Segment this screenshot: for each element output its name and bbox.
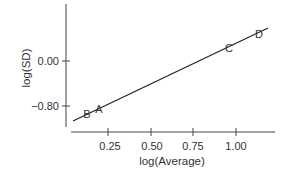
x-tick-label: 0.25 <box>99 140 120 152</box>
y-tick-label: 0.00 <box>38 55 59 67</box>
point-label-c: C <box>225 42 233 54</box>
y-axis-title: log(SD) <box>20 48 32 87</box>
x-axis-title: log(Average) <box>139 155 205 167</box>
chart: 0.00 −0.80 0.25 0.50 0.75 1.00 log(Avera… <box>0 0 289 176</box>
x-tick-label: 0.75 <box>182 140 203 152</box>
y-tick-label: −0.80 <box>31 100 59 112</box>
y-ticks: 0.00 −0.80 <box>31 55 70 112</box>
point-label-a: A <box>95 103 103 115</box>
x-tick-label: 0.50 <box>141 140 162 152</box>
x-tick-label: 1.00 <box>225 140 246 152</box>
point-label-d: D <box>255 28 263 40</box>
point-label-b: B <box>83 108 90 120</box>
